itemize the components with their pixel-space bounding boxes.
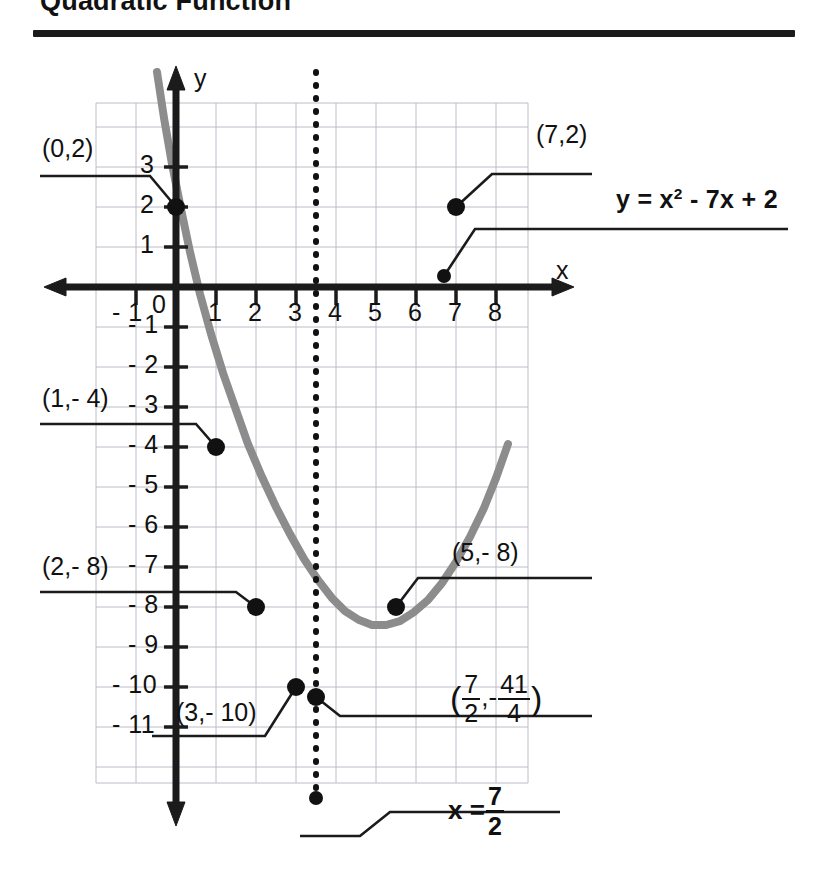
x-tick-label-1: 1 xyxy=(208,300,222,325)
y-tick-label--4: - 4 xyxy=(128,432,159,457)
y-tick-label--6: - 6 xyxy=(128,512,159,537)
equation-exponent: 2 xyxy=(674,185,683,202)
y-tick-label--2: - 2 xyxy=(128,352,159,377)
x-tick-label-3: 3 xyxy=(288,300,302,325)
y-tick-label--9: - 9 xyxy=(128,632,159,657)
y-axis-arrow-down xyxy=(167,802,185,826)
x-tick-label-6: 6 xyxy=(408,300,422,325)
y-axis-label: y xyxy=(194,66,207,91)
vertex-y-denominator: 4 xyxy=(498,698,530,727)
point-1-4 xyxy=(207,438,225,456)
point-x-intercept-right xyxy=(437,269,451,283)
point-callout-5-8: (5,- 8) xyxy=(452,540,519,565)
vertex-y-fraction: 414 xyxy=(498,671,530,726)
x-axis-label: x xyxy=(556,258,569,283)
y-tick-label--8: - 8 xyxy=(128,592,159,617)
plot-canvas xyxy=(0,0,813,872)
vertex-x-denominator: 2 xyxy=(462,698,480,727)
point-callout-7-2: (7,2) xyxy=(536,122,587,147)
x-tick-label-4: 4 xyxy=(328,300,342,325)
equation-lhs: y = xyxy=(616,185,652,213)
point-callout-1-4: (1,- 4) xyxy=(42,386,109,411)
vertex-close-paren: ) xyxy=(531,679,542,717)
point-axis-of-symmetry-marker xyxy=(309,791,323,805)
point-0-2 xyxy=(167,198,185,216)
point-5-8 xyxy=(387,598,405,616)
equation-label: y = x2 - 7x + 2 xyxy=(616,186,778,212)
figure-page: Quadratic Function xyxy=(0,0,813,872)
point-callout-0-2: (0,2) xyxy=(42,136,93,161)
x-tick-label-5: 5 xyxy=(368,300,382,325)
y-tick-label--7: - 7 xyxy=(128,552,159,577)
axis-of-symmetry-label: x =72 xyxy=(448,784,505,840)
point-vertex xyxy=(307,688,325,706)
x-tick-label-2: 2 xyxy=(248,300,262,325)
y-tick-label--10: - 10 xyxy=(112,672,157,697)
y-tick-label-1: 1 xyxy=(140,232,154,257)
vertex-y-sign: - xyxy=(488,682,497,712)
leader-7-2 xyxy=(456,174,592,207)
point-7-2 xyxy=(447,198,465,216)
vertex-open-paren: ( xyxy=(450,679,461,717)
x-tick-label-8: 8 xyxy=(488,300,502,325)
vertex-label: (72,-414) xyxy=(450,672,542,727)
axis-of-symmetry-denominator: 2 xyxy=(486,810,504,840)
equation-x-term: x xyxy=(660,185,674,213)
axis-of-symmetry-lhs: x = xyxy=(448,795,485,825)
y-tick-label-3: 3 xyxy=(140,152,154,177)
vertex-y-numerator: 41 xyxy=(498,671,530,698)
y-tick-label--1: - 1 xyxy=(128,312,159,337)
quadratic-function-plot: y x - 1 0 1 2 3 4 5 6 7 8 3 2 1 - 1 - 2 … xyxy=(0,0,813,872)
y-tick-label--11: - 11 xyxy=(112,712,155,737)
y-tick-label--3: - 3 xyxy=(128,392,159,417)
y-tick-label--5: - 5 xyxy=(128,472,159,497)
axis-of-symmetry-fraction: 72 xyxy=(486,783,504,839)
point-2-8 xyxy=(247,598,265,616)
point-3-10 xyxy=(287,678,305,696)
point-callout-2-8: (2,- 8) xyxy=(42,554,109,579)
vertex-x-fraction: 72 xyxy=(462,671,480,726)
x-axis-arrow-left xyxy=(44,278,66,296)
x-tick-label-7: 7 xyxy=(448,300,462,325)
point-callout-3-10: (3,- 10) xyxy=(176,700,257,725)
y-tick-label-2: 2 xyxy=(140,192,154,217)
y-axis-arrow-up xyxy=(167,66,185,90)
vertex-x-numerator: 7 xyxy=(462,671,480,698)
axis-of-symmetry-numerator: 7 xyxy=(486,783,504,810)
leader-axis-of-symmetry xyxy=(300,812,560,836)
leader-0-2 xyxy=(40,176,176,207)
equation-rest: - 7x + 2 xyxy=(690,185,778,213)
